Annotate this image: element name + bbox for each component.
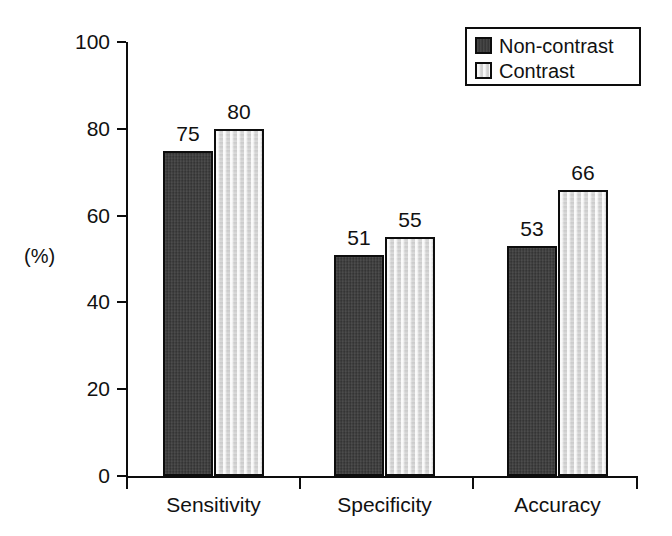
y-axis-tick (117, 388, 126, 390)
bar-value-label: 75 (158, 123, 218, 144)
y-axis-tick-label: 80 (87, 118, 110, 139)
legend-item-non-contrast: Non-contrast (475, 33, 639, 58)
bar (214, 129, 264, 476)
y-axis-line (126, 42, 128, 478)
bar (334, 255, 384, 476)
bar-value-label: 66 (553, 162, 613, 183)
y-axis-tick (117, 475, 126, 477)
y-axis-tick-label-wrap: 0 (40, 465, 110, 487)
x-axis-tick (472, 478, 474, 489)
y-axis-tick-label: 20 (87, 378, 110, 399)
legend-label-contrast: Contrast (499, 61, 575, 81)
y-axis-tick-label-wrap: 80 (40, 118, 110, 140)
y-axis-tick-label-wrap: 20 (40, 378, 110, 400)
y-axis-tick-label-wrap: 60 (40, 205, 110, 227)
bar (385, 237, 435, 476)
y-axis-tick-label-wrap: 40 (40, 291, 110, 313)
y-axis-tick (117, 301, 126, 303)
bar-chart: (%) 020406080100 758051555366 Sensitivit… (0, 0, 672, 536)
x-axis-tick (299, 478, 301, 489)
y-axis-tick-label: 40 (87, 291, 110, 312)
x-axis-tick (636, 478, 638, 489)
bar-value-label: 80 (209, 101, 269, 122)
legend-label-non-contrast: Non-contrast (499, 36, 614, 56)
x-axis-category-label: Specificity (295, 494, 475, 515)
bar (163, 151, 213, 477)
legend-swatch-icon-contrast (475, 62, 492, 79)
bar (507, 246, 557, 476)
bar-value-label: 53 (502, 218, 562, 239)
y-axis-tick-label: 0 (98, 465, 110, 486)
bar-value-label: 55 (380, 209, 440, 230)
y-axis-tick-label: 100 (75, 31, 110, 52)
y-axis-tick-label-wrap: 100 (40, 31, 110, 53)
x-axis-category-label: Accuracy (468, 494, 648, 515)
x-axis-line (126, 476, 638, 478)
legend: Non-contrast Contrast (465, 27, 641, 86)
y-axis-tick (117, 128, 126, 130)
bar (558, 190, 608, 476)
x-axis-tick (126, 478, 128, 489)
y-axis-tick-label: 60 (87, 205, 110, 226)
y-axis-unit-label: (%) (24, 246, 55, 266)
y-axis-tick (117, 215, 126, 217)
legend-item-contrast: Contrast (475, 58, 639, 83)
x-axis-category-label: Sensitivity (124, 494, 304, 515)
y-axis-tick (117, 41, 126, 43)
legend-swatch-icon-non-contrast (475, 37, 492, 54)
